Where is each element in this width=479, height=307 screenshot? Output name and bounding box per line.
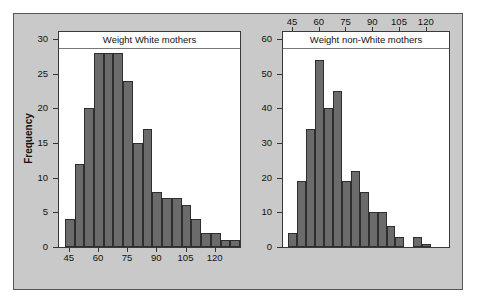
bar [360, 192, 369, 247]
bar [162, 198, 172, 247]
y-tick-label: 40 [250, 102, 272, 113]
y-tick-mark [53, 178, 58, 179]
figure-canvas: Frequency Weight White mothers 051015202… [0, 0, 479, 307]
y-tick-label: 25 [26, 68, 48, 79]
x-tick-label: 75 [114, 252, 140, 263]
bar [306, 129, 315, 247]
x-tick-mark [345, 27, 346, 31]
y-tick-mark [277, 178, 282, 179]
bar [288, 233, 297, 247]
x-tick-mark [127, 248, 128, 252]
y-tick-label: 0 [250, 241, 272, 252]
y-tick-label: 30 [26, 33, 48, 44]
bar [201, 233, 211, 247]
x-tick-label: 60 [306, 16, 332, 27]
x-tick-label: 45 [279, 16, 305, 27]
bar [123, 81, 133, 247]
figure-panel: Frequency Weight White mothers 051015202… [13, 13, 463, 290]
bar [75, 164, 85, 247]
bar [84, 108, 94, 247]
y-tick-mark [277, 74, 282, 75]
bar [94, 53, 104, 247]
x-tick-label: 105 [386, 16, 412, 27]
bar [65, 219, 75, 247]
y-tick-mark [53, 74, 58, 75]
bar [369, 212, 378, 247]
y-tick-label: 10 [26, 172, 48, 183]
x-tick-label: 75 [332, 16, 358, 27]
x-tick-mark [69, 248, 70, 252]
bar [191, 219, 201, 247]
y-tick-mark [277, 108, 282, 109]
y-tick-mark [277, 39, 282, 40]
y-tick-label: 5 [26, 206, 48, 217]
x-tick-mark [186, 248, 187, 252]
bar [104, 53, 114, 247]
y-tick-label: 20 [26, 102, 48, 113]
x-tick-mark [372, 27, 373, 31]
x-tick-mark [399, 27, 400, 31]
bar [387, 226, 396, 247]
y-tick-label: 50 [250, 68, 272, 79]
bar [143, 129, 153, 247]
y-tick-label: 60 [250, 33, 272, 44]
y-tick-label: 10 [250, 206, 272, 217]
y-tick-label: 20 [250, 172, 272, 183]
x-tick-label: 120 [413, 16, 439, 27]
y-tick-label: 0 [26, 241, 48, 252]
x-tick-label: 90 [359, 16, 385, 27]
bar [324, 108, 333, 247]
bar [378, 212, 387, 247]
y-tick-mark [53, 39, 58, 40]
y-tick-mark [277, 247, 282, 248]
bar [297, 181, 306, 247]
bars-white-mothers [59, 32, 240, 247]
y-tick-mark [277, 212, 282, 213]
bar [211, 233, 221, 247]
x-tick-label: 90 [143, 252, 169, 263]
bar [342, 181, 351, 247]
y-tick-label: 30 [250, 137, 272, 148]
x-tick-label: 45 [56, 252, 82, 263]
bar [172, 198, 182, 247]
x-tick-label: 120 [202, 252, 228, 263]
bars-non-white-mothers [283, 32, 449, 247]
y-tick-mark [53, 108, 58, 109]
x-tick-mark [215, 248, 216, 252]
y-tick-mark [53, 247, 58, 248]
bar [182, 205, 192, 247]
chart-white-mothers: Weight White mothers [58, 31, 241, 248]
bar [133, 143, 143, 247]
x-tick-mark [426, 27, 427, 31]
bar [413, 237, 422, 247]
bar [333, 91, 342, 247]
y-tick-label: 15 [26, 137, 48, 148]
bar [315, 60, 324, 247]
bar [351, 171, 360, 247]
bar [395, 237, 404, 247]
bar [113, 53, 123, 247]
bar [152, 192, 162, 247]
bar [221, 240, 231, 247]
y-tick-mark [277, 143, 282, 144]
bar [230, 240, 240, 247]
x-tick-mark [319, 27, 320, 31]
x-tick-label: 105 [173, 252, 199, 263]
y-tick-mark [53, 212, 58, 213]
x-tick-mark [292, 27, 293, 31]
chart-non-white-mothers: Weight non-White mothers [282, 31, 450, 248]
bar [422, 244, 431, 247]
x-tick-mark [98, 248, 99, 252]
x-tick-label: 60 [85, 252, 111, 263]
x-tick-mark [156, 248, 157, 252]
y-tick-mark [53, 143, 58, 144]
